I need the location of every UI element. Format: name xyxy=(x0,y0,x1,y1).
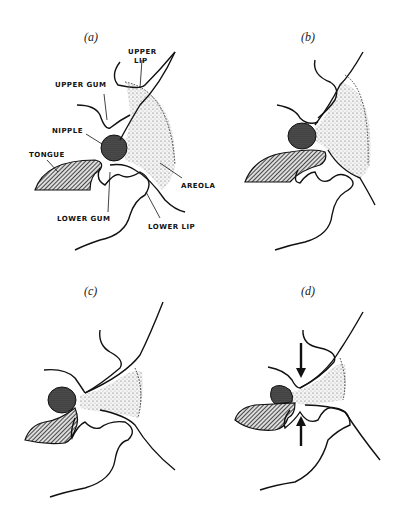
panel-d: (d) xyxy=(200,260,398,520)
label-upper-lip-2: LIP xyxy=(134,57,148,65)
panel-a: (a) UPPER LIP UPPER GUM NIPPLE TONGUE AR… xyxy=(0,0,199,260)
label-lower-gum: LOWER GUM xyxy=(57,215,110,223)
arrow-up-icon xyxy=(296,416,306,446)
label-nipple: NIPPLE xyxy=(52,127,83,135)
label-upper-lip: UPPER xyxy=(128,48,157,56)
panel-c: (c) xyxy=(0,260,199,520)
arrow-down-icon xyxy=(296,343,306,378)
mouth-diagram-b xyxy=(200,0,398,260)
label-tongue: TONGUE xyxy=(29,151,65,159)
mouth-diagram-d xyxy=(200,260,398,520)
mouth-diagram-c xyxy=(0,260,199,520)
label-lower-lip: LOWER LIP xyxy=(148,223,195,231)
panel-b: (b) xyxy=(200,0,398,260)
label-upper-gum: UPPER GUM xyxy=(55,81,106,89)
